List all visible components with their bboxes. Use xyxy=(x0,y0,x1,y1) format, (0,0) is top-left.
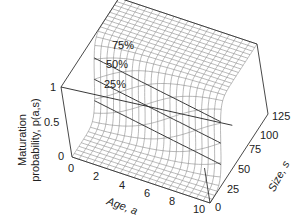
x-tick-0: 0 xyxy=(68,162,74,174)
surface-mesh xyxy=(72,0,257,203)
z-tick-0.5: 0.5 xyxy=(44,116,59,128)
x-tick-4: 4 xyxy=(119,179,125,191)
y-tick-75: 75 xyxy=(249,143,261,155)
x-tick-8: 8 xyxy=(169,195,175,207)
y-tick-0: 0 xyxy=(215,201,221,213)
contour-label-50: 50% xyxy=(106,58,128,70)
y-tick-125: 125 xyxy=(272,110,290,122)
maturation-surface-chart: 1 0.5 0 0 2 4 6 8 10 0 25 50 75 100 125 … xyxy=(0,0,303,222)
z-tick-0: 0 xyxy=(58,150,64,162)
contour-label-25: 25% xyxy=(104,78,126,90)
y-tick-25: 25 xyxy=(227,183,239,195)
x-axis-title: Age, a xyxy=(104,194,139,216)
z-axis-title-line1: Maturation xyxy=(16,114,28,166)
y-axis-title: Size, s xyxy=(265,158,291,193)
z-tick-1: 1 xyxy=(50,81,56,93)
x-tick-2: 2 xyxy=(93,170,99,182)
x-tick-10: 10 xyxy=(193,203,205,215)
y-tick-50: 50 xyxy=(238,163,250,175)
contour-label-75: 75% xyxy=(112,39,134,51)
y-tick-100: 100 xyxy=(260,129,278,141)
contour-lines xyxy=(61,58,232,165)
z-axis-title-line2: probability, p(a,s) xyxy=(29,98,41,182)
x-tick-6: 6 xyxy=(144,187,150,199)
